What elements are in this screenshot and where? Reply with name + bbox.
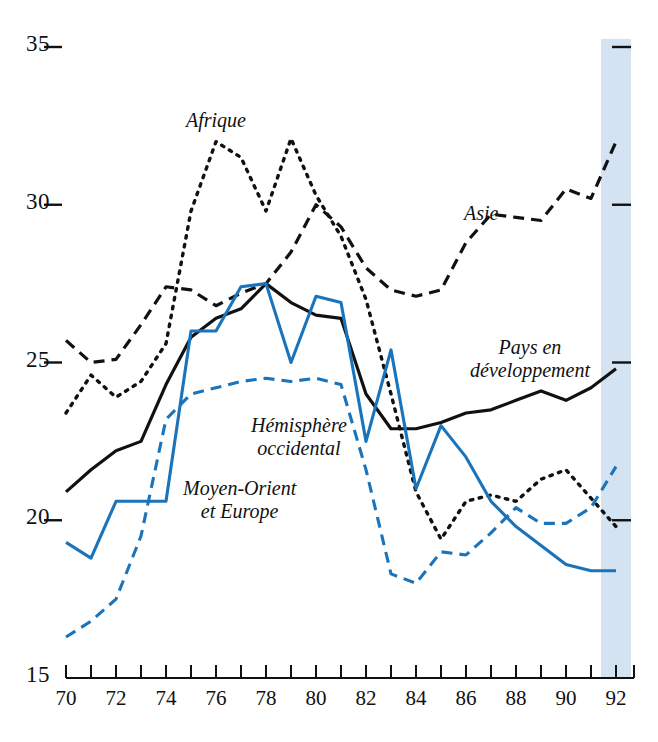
series-label-moyen-orient-et-europe: Moyen-Orient et Europe xyxy=(183,477,296,523)
x-axis-tick-label: 80 xyxy=(296,686,336,711)
y-axis-tick-15: 15 xyxy=(26,662,50,688)
series-label-hemisphere-occidental: Hémisphère occidental xyxy=(251,414,347,460)
y-axis-tick-25: 25 xyxy=(26,347,50,373)
y-axis-tick-20: 20 xyxy=(26,504,50,530)
series-label-hemi-line1: Hémisphère xyxy=(251,414,347,436)
x-axis-tick-label: 86 xyxy=(446,686,486,711)
series-label-moyen-line2: et Europe xyxy=(201,500,279,522)
series-label-afrique: Afrique xyxy=(186,109,246,131)
series-label-hemi-line2: occidental xyxy=(257,437,340,459)
x-axis-tick-label: 90 xyxy=(546,686,586,711)
series-label-pays-line2: développement xyxy=(470,359,590,381)
x-axis-tick-label: 72 xyxy=(96,686,136,711)
series-line-asie xyxy=(66,142,616,363)
x-axis-tick-label: 84 xyxy=(396,686,436,711)
series-label-pays-en-developpement: Pays en développement xyxy=(470,336,590,382)
chart-figure: 35 30 25 20 15 707274767880828486889092 … xyxy=(0,0,658,742)
series-layer xyxy=(66,138,616,636)
x-axis-tick-label: 78 xyxy=(246,686,286,711)
x-axis-tick-label: 70 xyxy=(46,686,86,711)
x-axis-tick-label: 76 xyxy=(196,686,236,711)
x-axis-tick-label: 92 xyxy=(596,686,636,711)
series-label-asie: Asie xyxy=(464,202,498,224)
series-label-pays-line1: Pays en xyxy=(499,336,562,358)
y-axis-tick-35: 35 xyxy=(26,31,50,57)
x-axis-tick-label: 88 xyxy=(496,686,536,711)
series-label-moyen-line1: Moyen-Orient xyxy=(183,477,296,499)
x-axis-tick-label: 82 xyxy=(346,686,386,711)
highlight-band xyxy=(601,39,631,678)
x-axis-tick-label: 74 xyxy=(146,686,186,711)
highlight-band-layer xyxy=(601,39,631,678)
y-axis-tick-30: 30 xyxy=(26,189,50,215)
